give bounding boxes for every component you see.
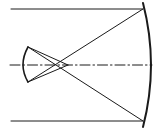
diagram-svg bbox=[0, 0, 160, 138]
reflected-ray-top bbox=[28, 9, 143, 82]
reflected-ray-bottom bbox=[28, 47, 143, 121]
secondary-ray-bottom bbox=[28, 65, 68, 82]
secondary-mirror bbox=[23, 47, 28, 82]
optical-diagram bbox=[0, 0, 160, 138]
secondary-ray-top bbox=[28, 47, 68, 65]
